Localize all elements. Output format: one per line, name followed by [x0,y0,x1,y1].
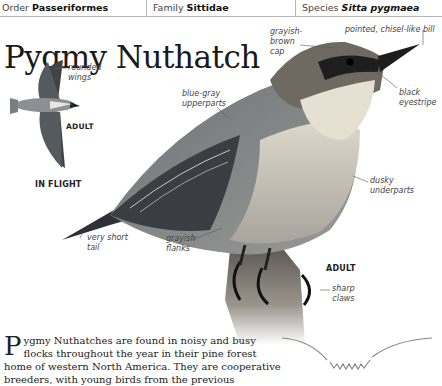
bill-label: pointed, chisel-like bill [345,25,435,35]
description-text: ygmy Nuthatches are found in noisy and b… [4,335,281,385]
wings-label: roundedwings [68,63,101,83]
flight-adult-label: ADULT [66,122,94,131]
cap-label: grayish-browncap [270,27,302,57]
song-wave-icon [282,338,432,369]
main-adult-label: ADULT [326,264,356,273]
upperparts-label: blue-grayupperparts [182,89,226,109]
drop-cap: P [4,335,22,357]
in-flight-caption: IN FLIGHT [35,180,82,189]
claws-label: sharpclaws [332,284,355,304]
underparts-label: duskyunderparts [370,176,414,196]
eyestripe-label: blackeyestripe [399,88,436,108]
flanks-label: grayishflanks [166,234,195,254]
description-paragraph: Pygmy Nuthatches are found in noisy and … [4,334,284,386]
tail-label: very shorttail [87,233,128,253]
